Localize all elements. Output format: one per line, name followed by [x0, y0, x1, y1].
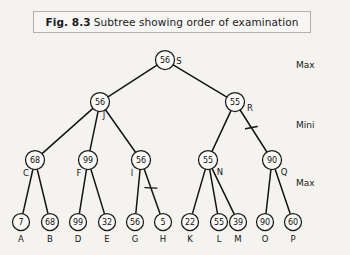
node-value: 68	[30, 156, 40, 165]
tree-nodes: 56S56J55R68C99F56I55N90Q7A68B99D32E56G5H…	[13, 51, 302, 245]
tree-edge	[212, 169, 234, 215]
node-label: H	[160, 234, 166, 244]
node-value: 22	[185, 218, 195, 227]
tree-leaf-node: 39M	[230, 214, 247, 245]
node-label: M	[234, 234, 241, 244]
node-value: 56	[136, 156, 146, 165]
tree-leaf-node: 5H	[155, 214, 172, 245]
game-tree-diagram: 56S56J55R68C99F56I55N90Q7A68B99D32E56G5H…	[0, 0, 350, 255]
node-value: 60	[288, 218, 298, 227]
tree-edge	[105, 110, 135, 152]
node-label: D	[75, 234, 82, 244]
level-label-text: Max	[296, 60, 315, 70]
node-label: S	[176, 56, 181, 66]
tree-edge	[240, 110, 267, 152]
tree-internal-node: 56I	[131, 151, 151, 179]
tree-leaf-node: 60P	[285, 214, 302, 245]
node-label: F	[77, 168, 82, 178]
node-label: R	[247, 103, 253, 113]
tree-edge	[42, 108, 93, 153]
node-label: Q	[281, 167, 288, 177]
tree-leaf-node: 55L	[211, 214, 228, 245]
tree-edge	[37, 169, 48, 214]
node-label: C	[23, 168, 29, 178]
node-label: J	[102, 110, 106, 120]
tree-edge	[192, 169, 205, 214]
tree-internal-node: 99F	[77, 151, 98, 179]
node-value: 90	[260, 218, 270, 227]
tree-internal-node: 56S	[156, 51, 182, 70]
tree-internal-node: 55R	[226, 93, 254, 114]
tree-edge	[266, 169, 271, 213]
tree-edge	[108, 65, 157, 97]
tree-leaf-node: 22K	[182, 214, 199, 245]
tree-edge	[212, 111, 231, 152]
node-value: 55	[203, 156, 213, 165]
tree-leaf-node: 7A	[13, 214, 30, 245]
node-label: A	[18, 234, 24, 244]
tree-edge	[136, 169, 140, 213]
tree-edge	[173, 65, 227, 97]
node-label: P	[290, 234, 295, 244]
node-value: 7	[18, 218, 23, 227]
level-labels: MaxMiniMax	[296, 60, 315, 188]
node-value: 99	[83, 156, 93, 165]
node-value: 68	[45, 218, 55, 227]
node-label: E	[104, 234, 109, 244]
node-value: 90	[267, 156, 277, 165]
tree-edge	[144, 169, 160, 214]
tree-leaf-node: 99D	[70, 214, 87, 245]
tree-internal-node: 56J	[91, 93, 110, 121]
node-value: 56	[130, 218, 140, 227]
node-value: 55	[230, 98, 240, 107]
tree-edges	[23, 65, 290, 214]
node-value: 56	[160, 56, 170, 65]
node-label: L	[217, 234, 222, 244]
tree-edge	[90, 111, 98, 150]
tree-internal-node: 68C	[23, 151, 44, 179]
level-label-text: Max	[296, 178, 315, 188]
node-label: B	[47, 234, 53, 244]
level-label-text: Mini	[296, 120, 314, 130]
node-value: 39	[233, 218, 243, 227]
node-value: 99	[73, 218, 83, 227]
node-value: 55	[214, 218, 224, 227]
tree-leaf-node: 32E	[99, 214, 116, 245]
node-label: K	[187, 234, 193, 244]
node-value: 32	[102, 218, 112, 227]
tree-internal-node: 90Q	[263, 151, 288, 178]
tree-leaf-node: 56G	[127, 214, 144, 245]
tree-leaf-node: 90O	[257, 214, 274, 245]
tree-leaf-node: 68B	[42, 214, 59, 245]
node-label: I	[131, 168, 134, 178]
node-value: 56	[95, 98, 105, 107]
tree-edge	[91, 169, 105, 214]
node-label: O	[262, 234, 269, 244]
node-label: G	[132, 234, 139, 244]
node-label: N	[217, 167, 223, 177]
node-value: 5	[160, 218, 165, 227]
figure-page: Fig. 8.3Subtree showing order of examina…	[0, 0, 350, 255]
